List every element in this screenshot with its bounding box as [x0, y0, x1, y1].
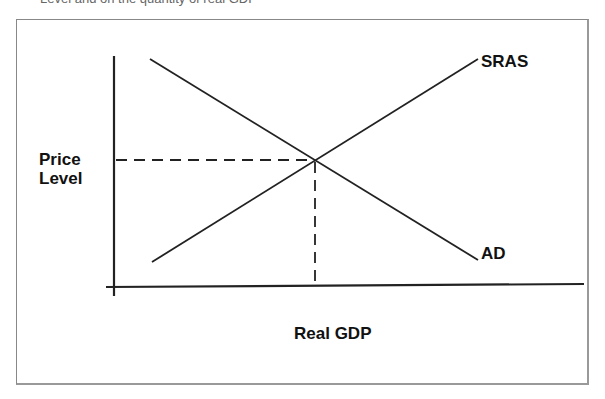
sras-label: SRAS — [481, 52, 528, 71]
y-axis-label-line2: Level — [39, 169, 82, 188]
ad-label: AD — [481, 244, 506, 263]
y-axis-label-line1: Price — [39, 150, 81, 169]
x-axis-label: Real GDP — [294, 324, 371, 343]
x-axis — [106, 284, 584, 287]
